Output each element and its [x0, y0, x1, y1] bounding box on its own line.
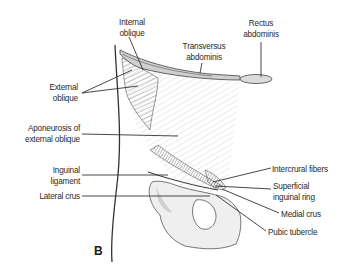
label-transversus-abdominis: Transversus abdominis [178, 40, 230, 62]
label-pubic-tubercle: Pubic tubercle [268, 226, 317, 237]
label-rectus-abdominis: Rectus abdominis [236, 17, 286, 39]
panel-letter: B [94, 244, 103, 258]
label-superficial-inguinal-ring: Superficial inguinal ring [273, 180, 315, 202]
label-internal-oblique: Internal oblique [113, 16, 151, 38]
label-aponeurosis-external-oblique: Aponeurosis of external oblique [11, 122, 80, 144]
label-medial-crus: Medial crus [281, 208, 321, 219]
anatomy-figure: Internal oblique Rectus abdominis Transv… [0, 0, 352, 270]
label-lateral-crus: Lateral crus [15, 190, 80, 201]
rectus-abdominis-shape [240, 75, 272, 84]
label-external-oblique: External oblique [28, 81, 78, 103]
label-intercrural-fibers: Intercrural fibers [272, 163, 328, 174]
label-inguinal-ligament: Inguinal ligament [28, 164, 80, 186]
